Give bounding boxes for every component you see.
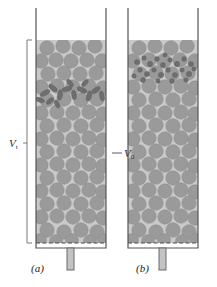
panel-caption-a: (a) <box>31 262 44 274</box>
chromatography-columns-diagram <box>0 0 217 287</box>
total-volume-bracket <box>23 40 32 243</box>
column-b <box>126 8 203 270</box>
figure-container: Vt V0 (a) (b) <box>0 0 217 287</box>
column-a <box>34 8 111 270</box>
void-volume-label: V0 <box>124 148 134 159</box>
column-a-base <box>36 243 106 248</box>
total-volume-label: Vt <box>9 138 18 149</box>
column-b-base <box>128 243 198 248</box>
panel-caption-b: (b) <box>136 262 149 274</box>
column-a-outlet-tube <box>67 248 74 270</box>
column-b-outlet-tube <box>159 248 166 270</box>
